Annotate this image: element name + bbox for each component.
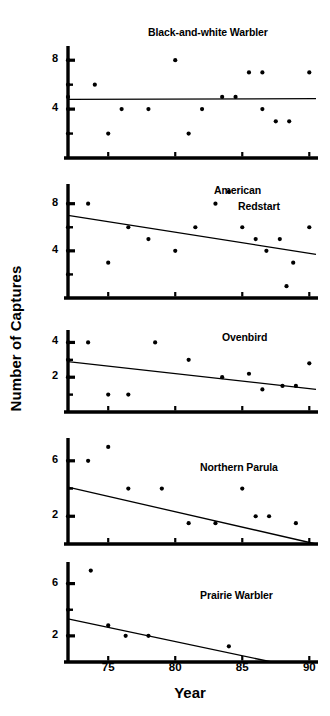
data-point (254, 237, 258, 241)
data-point (240, 225, 244, 229)
data-point (247, 372, 251, 376)
data-point (173, 249, 177, 253)
regression-line (68, 487, 316, 544)
data-point (240, 486, 244, 490)
data-point (307, 225, 311, 229)
data-point (120, 107, 124, 111)
y-tick-label: 2 (36, 508, 58, 520)
data-point (124, 634, 128, 638)
regression-line (68, 215, 316, 254)
data-point (106, 445, 110, 449)
data-point (280, 384, 284, 388)
panel-plot-area (0, 556, 330, 670)
data-point (227, 644, 231, 648)
data-point (66, 582, 70, 586)
x-tick-label: 80 (162, 661, 188, 673)
data-point (213, 521, 217, 525)
data-point (106, 393, 110, 397)
data-point (66, 375, 70, 379)
y-tick-label: 2 (36, 369, 58, 381)
regression-line (68, 99, 316, 100)
data-point (66, 249, 70, 253)
chart-panel: 26 (0, 556, 330, 670)
panel-plot-area (0, 432, 330, 554)
panel-title-line2: Redstart (238, 200, 280, 212)
data-point (106, 131, 110, 135)
data-point (66, 58, 70, 62)
y-tick-label: 8 (36, 196, 58, 208)
x-tick-label: 75 (95, 661, 121, 673)
panel-title: Prairie Warbler (200, 589, 273, 601)
data-point (193, 225, 197, 229)
data-point (66, 202, 70, 206)
data-point (200, 107, 204, 111)
data-point (220, 375, 224, 379)
data-point (278, 237, 282, 241)
data-point (260, 70, 264, 74)
regression-line (68, 362, 316, 390)
panel-title: Black-and-white Warbler (148, 26, 268, 38)
regression-line (68, 619, 272, 662)
data-point (86, 459, 90, 463)
data-point (66, 272, 70, 276)
data-point (173, 58, 177, 62)
data-point (146, 107, 150, 111)
data-point (291, 261, 295, 265)
data-point (187, 358, 191, 362)
data-point (294, 384, 298, 388)
data-point (247, 70, 251, 74)
data-point (254, 514, 258, 518)
data-point (260, 107, 264, 111)
data-point (66, 340, 70, 344)
data-point (307, 361, 311, 365)
data-point (160, 486, 164, 490)
panel-title: Northern Parula (200, 461, 278, 473)
y-tick-label: 6 (36, 453, 58, 465)
data-point (287, 119, 291, 123)
chart-panel: 24 (0, 324, 330, 422)
data-point (274, 119, 278, 123)
data-point (86, 340, 90, 344)
data-point (187, 521, 191, 525)
data-point (66, 131, 70, 135)
data-point (126, 486, 130, 490)
data-point (66, 459, 70, 463)
x-axis-label: Year (60, 684, 320, 701)
y-tick-label: 8 (36, 52, 58, 64)
data-point (66, 83, 70, 87)
data-point (93, 83, 97, 87)
data-point (66, 107, 70, 111)
chart-panel: 48 (0, 178, 330, 308)
data-point (264, 249, 268, 253)
data-point (213, 202, 217, 206)
data-point (66, 358, 70, 362)
data-point (126, 393, 130, 397)
panel-title: Ovenbird (222, 331, 267, 343)
data-point (66, 95, 70, 99)
data-point (233, 95, 237, 99)
data-point (294, 521, 298, 525)
data-point (220, 95, 224, 99)
chart-panel: 26 (0, 432, 330, 554)
x-tick-label: 85 (229, 661, 255, 673)
x-tick-label: 90 (296, 661, 322, 673)
panel-title: American (214, 184, 261, 196)
data-point (66, 634, 70, 638)
data-point (126, 225, 130, 229)
data-point (153, 340, 157, 344)
y-tick-label: 4 (36, 101, 58, 113)
data-point (106, 623, 110, 627)
data-point (187, 131, 191, 135)
data-point (106, 261, 110, 265)
data-point (86, 202, 90, 206)
data-point (89, 568, 93, 572)
data-point (66, 514, 70, 518)
data-point (267, 514, 271, 518)
data-point (146, 634, 150, 638)
y-tick-label: 2 (36, 628, 58, 640)
data-point (66, 225, 70, 229)
data-point (307, 70, 311, 74)
data-point (284, 284, 288, 288)
y-tick-label: 6 (36, 576, 58, 588)
y-tick-label: 4 (36, 334, 58, 346)
